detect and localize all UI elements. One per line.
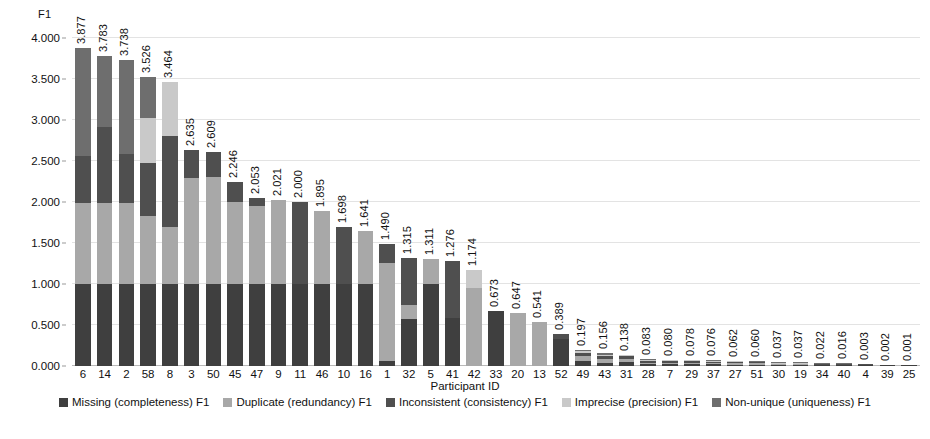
bar-segment[interactable]: [401, 319, 417, 366]
bar-segment[interactable]: [184, 178, 200, 284]
bar-segment[interactable]: [140, 77, 156, 118]
bar-segment[interactable]: [619, 362, 635, 366]
bar-segment[interactable]: [206, 177, 222, 284]
bar-segment[interactable]: [532, 322, 548, 366]
bar-column[interactable]: 0.080: [662, 360, 678, 367]
bar-segment[interactable]: [575, 361, 591, 366]
bar-column[interactable]: 0.156: [597, 353, 613, 366]
bar-segment[interactable]: [553, 339, 569, 366]
bar-segment[interactable]: [184, 284, 200, 366]
bar-column[interactable]: 1.315: [401, 258, 417, 366]
bar-segment[interactable]: [597, 363, 613, 366]
bar-column[interactable]: 0.002: [880, 365, 896, 366]
bar-segment[interactable]: [423, 259, 439, 285]
bar-column[interactable]: 0.673: [488, 311, 504, 366]
bar-column[interactable]: 0.016: [836, 363, 852, 366]
bar-segment[interactable]: [727, 365, 743, 366]
bar-segment[interactable]: [75, 284, 91, 366]
bar-segment[interactable]: [423, 284, 439, 366]
bar-column[interactable]: 3.783: [97, 56, 113, 366]
bar-segment[interactable]: [97, 56, 113, 127]
bar-segment[interactable]: [271, 200, 287, 284]
bar-segment[interactable]: [206, 152, 222, 177]
bar-column[interactable]: 0.076: [706, 360, 722, 366]
bar-segment[interactable]: [901, 365, 917, 366]
bar-segment[interactable]: [227, 202, 243, 284]
bar-segment[interactable]: [814, 365, 830, 366]
bar-column[interactable]: 1.895: [314, 211, 330, 366]
bar-segment[interactable]: [445, 261, 461, 317]
bar-segment[interactable]: [75, 156, 91, 204]
bar-segment[interactable]: [793, 365, 809, 366]
bar-segment[interactable]: [379, 244, 395, 263]
bar-segment[interactable]: [184, 150, 200, 178]
bar-segment[interactable]: [706, 364, 722, 366]
bar-segment[interactable]: [662, 364, 678, 366]
bar-segment[interactable]: [836, 365, 852, 366]
bar-segment[interactable]: [445, 318, 461, 366]
bar-segment[interactable]: [858, 365, 874, 366]
bar-column[interactable]: 1.490: [379, 244, 395, 366]
bar-segment[interactable]: [271, 284, 287, 366]
bar-segment[interactable]: [684, 364, 700, 366]
bar-segment[interactable]: [75, 203, 91, 284]
bar-column[interactable]: 0.541: [532, 322, 548, 366]
bar-segment[interactable]: [401, 258, 417, 305]
bar-column[interactable]: 0.197: [575, 350, 591, 366]
bar-column[interactable]: 0.389: [553, 334, 569, 366]
bar-column[interactable]: 2.635: [184, 150, 200, 366]
bar-segment[interactable]: [119, 154, 135, 203]
bar-segment[interactable]: [336, 284, 352, 366]
bar-column[interactable]: 0.078: [684, 360, 700, 366]
bar-column[interactable]: 0.083: [640, 359, 656, 366]
bar-segment[interactable]: [880, 365, 896, 366]
bar-segment[interactable]: [249, 206, 265, 284]
bar-segment[interactable]: [379, 361, 395, 366]
bar-segment[interactable]: [249, 284, 265, 366]
bar-segment[interactable]: [249, 198, 265, 206]
bar-segment[interactable]: [292, 284, 308, 366]
bar-column[interactable]: 1.698: [336, 227, 352, 366]
bar-segment[interactable]: [75, 48, 91, 156]
bar-column[interactable]: 1.276: [445, 261, 461, 366]
bar-segment[interactable]: [314, 211, 330, 284]
bar-segment[interactable]: [97, 127, 113, 203]
bar-segment[interactable]: [227, 182, 243, 202]
bar-segment[interactable]: [140, 284, 156, 366]
bar-column[interactable]: 2.053: [249, 198, 265, 366]
bar-segment[interactable]: [488, 311, 504, 366]
bar-segment[interactable]: [314, 284, 330, 366]
bar-segment[interactable]: [119, 60, 135, 155]
bar-column[interactable]: 0.022: [814, 363, 830, 366]
bar-segment[interactable]: [510, 313, 526, 366]
bar-column[interactable]: 0.062: [727, 361, 743, 366]
bar-column[interactable]: 3.738: [119, 60, 135, 366]
bar-segment[interactable]: [292, 202, 308, 284]
bar-segment[interactable]: [771, 365, 787, 366]
bar-segment[interactable]: [162, 136, 178, 226]
bar-segment[interactable]: [97, 284, 113, 366]
bar-segment[interactable]: [140, 216, 156, 284]
bar-segment[interactable]: [140, 163, 156, 215]
bar-column[interactable]: 0.037: [771, 362, 787, 366]
legend-item[interactable]: Inconsistent (consistency) F1: [386, 396, 548, 408]
bar-segment[interactable]: [206, 284, 222, 366]
bar-column[interactable]: 1.311: [423, 259, 439, 367]
bar-column[interactable]: 3.464: [162, 82, 178, 366]
bar-segment[interactable]: [119, 203, 135, 284]
bar-segment[interactable]: [336, 227, 352, 284]
legend-item[interactable]: Duplicate (redundancy) F1: [223, 396, 372, 408]
bar-segment[interactable]: [227, 284, 243, 366]
bar-column[interactable]: 0.037: [793, 362, 809, 366]
bar-column[interactable]: 2.246: [227, 182, 243, 366]
bar-column[interactable]: 0.003: [858, 364, 874, 366]
bar-segment[interactable]: [162, 284, 178, 366]
bar-column[interactable]: 1.174: [466, 270, 482, 366]
bar-segment[interactable]: [640, 364, 656, 366]
bar-segment[interactable]: [466, 270, 482, 288]
bar-segment[interactable]: [140, 118, 156, 163]
bar-column[interactable]: 2.609: [206, 152, 222, 366]
bar-column[interactable]: 3.877: [75, 48, 91, 366]
legend-item[interactable]: Missing (completeness) F1: [59, 396, 209, 408]
bar-segment[interactable]: [358, 284, 374, 366]
